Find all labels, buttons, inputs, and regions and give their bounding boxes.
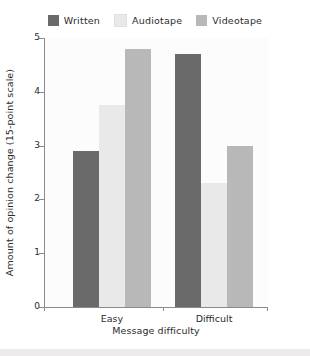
x-tick-mark (163, 307, 164, 311)
legend-entry: Videotape (196, 15, 262, 26)
x-group-label: Easy (101, 313, 123, 324)
legend-entry: Written (48, 15, 100, 26)
bar-chart-figure: WrittenAudiotapeVideotape 012345 EasyDif… (0, 0, 310, 356)
bar (99, 105, 125, 307)
legend-label: Written (64, 15, 100, 26)
y-tick-label: 2 (34, 193, 40, 203)
x-axis-line (44, 307, 268, 308)
chart-legend: WrittenAudiotapeVideotape (0, 14, 310, 27)
x-group-label: Difficult (196, 313, 233, 324)
bottom-band (0, 349, 310, 356)
legend-label: Videotape (212, 15, 262, 26)
y-axis-line (44, 38, 45, 307)
x-tick-mark (44, 307, 45, 311)
x-tick-mark (267, 307, 268, 311)
legend-swatch-icon (48, 15, 59, 26)
y-axis-title: Amount of opinion change (15-point scale… (2, 38, 16, 307)
legend-swatch-icon (196, 15, 207, 26)
y-tick-label: 3 (34, 140, 40, 150)
bar (73, 151, 99, 307)
y-tick-label: 5 (34, 32, 40, 42)
legend-label: Audiotape (132, 15, 182, 26)
bar (125, 49, 151, 307)
y-tick-label: 0 (34, 301, 40, 311)
y-tick-label: 1 (34, 247, 40, 257)
y-tick-label: 4 (34, 86, 40, 96)
bar (175, 54, 201, 307)
plot-area: 012345 EasyDifficult (44, 38, 268, 307)
legend-entry: Audiotape (114, 14, 182, 27)
legend-swatch-icon (114, 14, 127, 27)
x-axis-title: Message difficulty (44, 325, 268, 336)
bar (201, 183, 227, 307)
bar (227, 146, 253, 307)
